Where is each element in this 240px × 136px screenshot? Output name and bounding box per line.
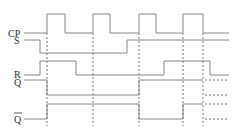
waveform-qbar [24,104,203,119]
label-q: Q [14,77,22,88]
waveform-cp [24,14,229,33]
waveform-r [24,61,229,75]
waveform-s [24,40,229,53]
label-qbar: Q [14,114,22,125]
waveform-q [24,80,203,95]
timing-diagram: CP S R Q Q [0,0,240,136]
label-s: S [14,35,20,46]
